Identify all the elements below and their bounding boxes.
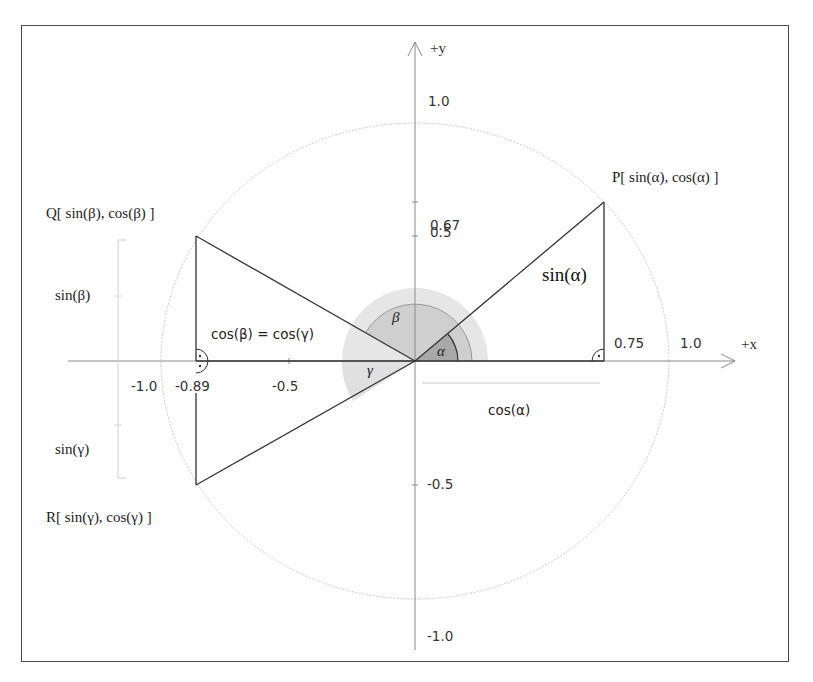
x-tick-075: 0.75	[614, 337, 644, 351]
sin-alpha-label: sin(α)	[542, 265, 587, 284]
gamma-angle-label: γ	[367, 363, 373, 378]
x-tick-neg089: -0.89	[175, 380, 210, 394]
point-r-label: R[ sin(γ), cos(γ) ]	[46, 510, 152, 525]
cos-beta-equals-cos-gamma-label: cos(β) = cos(γ)	[211, 328, 314, 342]
alpha-angle-label: α	[437, 344, 445, 359]
or-segment	[196, 361, 415, 485]
y-axis-label: +y	[430, 41, 446, 56]
x-tick-neg05: -0.5	[272, 380, 298, 394]
x-tick-1: 1.0	[680, 337, 701, 351]
point-p-label: P[ sin(α), cos(α) ]	[612, 170, 719, 185]
y-tick-05: 0.5	[430, 226, 451, 240]
sin-gamma-label: sin(γ)	[55, 442, 89, 457]
sin-beta-label: sin(β)	[55, 288, 90, 303]
cos-alpha-label: cos(α)	[488, 404, 530, 418]
y-tick-1: 1.0	[428, 95, 449, 109]
y-tick-neg1: -1.0	[427, 630, 453, 644]
beta-angle-label: β	[392, 310, 399, 325]
point-q-label: Q[ sin(β), cos(β) ]	[46, 206, 155, 221]
y-tick-neg05: -0.5	[427, 478, 453, 492]
x-tick-neg1: -1.0	[131, 380, 157, 394]
x-axis-label: +x	[741, 337, 757, 352]
